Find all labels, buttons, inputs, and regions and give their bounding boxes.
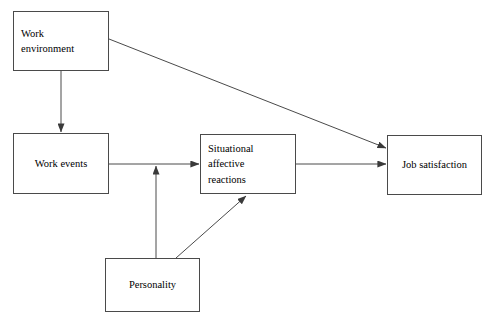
node-situational-affective-reactions[interactable]: Situational affective reactions [200,134,296,194]
node-work-environment-label: Work environment [14,26,81,56]
node-situational-affective-reactions-label: Situational affective reactions [201,141,295,187]
node-work-events-label: Work events [28,156,95,171]
node-job-satisfaction[interactable]: Job satisfaction [387,135,482,195]
flow-diagram: Work environment Work events Situational… [0,0,493,327]
edge-personality-to-situational [176,196,246,258]
edge-work-environment-to-job-satisfaction [109,39,386,148]
node-personality-label: Personality [122,277,183,292]
node-work-environment[interactable]: Work environment [13,11,109,71]
node-work-events[interactable]: Work events [13,133,109,194]
node-job-satisfaction-label: Job satisfaction [395,157,474,172]
node-personality[interactable]: Personality [105,258,200,312]
